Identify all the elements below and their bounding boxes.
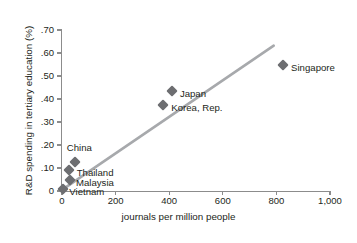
x-tick-label: 1,000: [318, 196, 342, 206]
y-axis-line: [61, 29, 62, 192]
x-tick-label: 0: [59, 196, 64, 206]
x-tick-label: 800: [268, 196, 284, 206]
data-point-label: Korea, Rep.: [171, 103, 222, 113]
y-tick-mark: [57, 167, 61, 168]
x-axis-title: journals per million people: [0, 211, 357, 222]
chart-figure: 0.10.20.30.40.50.60.70 02004006008001,00…: [0, 0, 357, 243]
y-tick-mark: [57, 98, 61, 99]
y-tick-label: .60: [41, 48, 54, 58]
y-tick-mark: [57, 144, 61, 145]
data-point-marker[interactable]: [58, 183, 69, 194]
x-tick-label: 400: [161, 196, 177, 206]
y-tick-mark: [57, 52, 61, 53]
data-point-marker[interactable]: [64, 174, 75, 185]
data-point-label: Singapore: [291, 63, 335, 73]
y-tick-mark: [57, 75, 61, 76]
y-tick-label: .50: [41, 71, 54, 81]
y-tick-label: 0: [49, 186, 54, 196]
data-point-label: Vietnam: [69, 187, 104, 197]
y-tick-label: .40: [41, 94, 54, 104]
y-axis-title: R&D spending in tertiary education (%): [23, 21, 34, 201]
x-tick-label: 600: [215, 196, 231, 206]
data-point-marker[interactable]: [166, 85, 177, 96]
y-tick-label: .30: [41, 117, 54, 127]
data-point-marker[interactable]: [63, 165, 74, 176]
data-point-label: Japan: [180, 89, 206, 99]
y-tick-label: .20: [41, 140, 54, 150]
y-tick-mark: [57, 29, 61, 30]
data-point-label: Thailand: [77, 168, 114, 178]
data-point-marker[interactable]: [158, 100, 169, 111]
data-point-marker[interactable]: [277, 59, 288, 70]
x-tick-label: 200: [108, 196, 124, 206]
y-tick-label: .70: [41, 25, 54, 35]
y-tick-label: .10: [41, 163, 54, 173]
y-tick-mark: [57, 121, 61, 122]
data-point-label: Malaysia: [76, 178, 114, 188]
data-point-label: China: [67, 143, 92, 153]
